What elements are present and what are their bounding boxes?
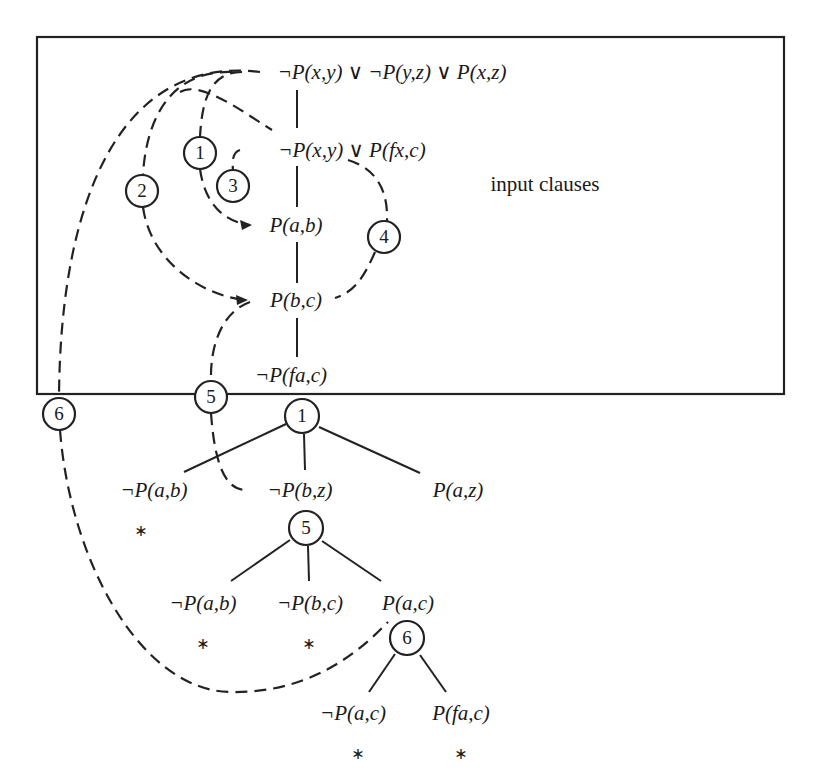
arc-3 [233,150,240,170]
arc-4b [335,252,375,298]
closed-branch-mark: ∗ [302,634,315,653]
arc-6b [60,430,388,692]
step-marker-1: 1 [195,142,205,164]
closed-branch-mark: ∗ [134,521,147,540]
arc-6 [59,71,260,398]
input-clause-2: ¬P(x,y) ∨ P(fx,c) [278,138,425,162]
tree-node-1: 1 [297,405,307,427]
input-clause-5: ¬P(fa,c) [255,363,327,387]
input-clause-4: P(b,c) [270,288,322,312]
tree-node-6: 6 [402,627,412,649]
tree-node-5: 5 [301,517,311,539]
closed-branch-mark: ∗ [196,634,209,653]
tree-leaf: ¬P(b,z) [268,478,333,502]
tableau-diagram [0,0,818,781]
input-clause-3: P(a,b) [269,213,322,237]
arc-2b [143,207,245,300]
arrowheads [236,220,252,305]
tree-leaf: P(fa,c) [432,701,490,725]
closed-branch-mark: ∗ [454,744,467,763]
step-marker-6: 6 [54,403,64,425]
closed-branch-mark: ∗ [351,744,364,763]
tree-leaf: ¬P(b,c) [277,591,343,615]
input-clauses-caption: input clauses [490,172,599,196]
arc-5 [211,302,250,381]
tree-leaf: ¬P(a,b) [120,478,187,502]
step-marker-3: 3 [228,175,238,197]
tree-leaf: P(a,c) [382,591,434,615]
input-clauses-box [37,37,784,394]
arc-1 [200,72,242,137]
arc-4 [348,160,387,221]
step-marker-4: 4 [379,226,389,248]
arc-top-to-c2 [180,89,272,130]
arrowhead-icon [240,220,252,230]
step-circles [43,137,424,655]
tree-leaf: P(a,z) [433,478,484,502]
tree-leaf: ¬P(a,c) [320,701,386,725]
step-marker-2: 2 [137,180,147,202]
step-marker-5: 5 [206,386,216,408]
tree-leaf: ¬P(a,b) [169,591,236,615]
input-clause-1: ¬P(x,y) ∨ ¬P(y,z) ∨ P(x,z) [278,60,507,84]
